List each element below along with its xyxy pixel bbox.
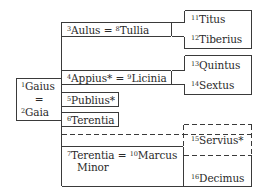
marriage-sign: =: [16, 93, 62, 105]
person-sextus: 14Sextus: [191, 79, 234, 91]
person-tiberius: 12Tiberius: [191, 33, 242, 45]
couple-terentia-marcus: 7Terentia = 10Marcus: [67, 149, 177, 161]
person-publius: 5Publius*: [67, 94, 115, 106]
couple-terentia-marcus-line2: Minor: [77, 161, 109, 173]
person-gaius: 1Gaius: [21, 80, 55, 92]
person-quintus: 13Quintus: [191, 59, 240, 71]
person-decimus: 16Decimus: [191, 172, 244, 184]
family-tree-diagram: 1Gaius = 2Gaia 3Aulus = 8Tullia 4Appius*…: [0, 0, 261, 195]
person-gaia: 2Gaia: [21, 106, 49, 118]
couple-appius-licinia: 4Appius* = 9Licinia: [67, 72, 167, 84]
couple-aulus-tullia: 3Aulus = 8Tullia: [67, 24, 149, 36]
person-servius: 15Servius*: [191, 134, 243, 146]
person-titus: 11Titus: [191, 13, 225, 25]
person-terentia: 6Terentia: [67, 114, 114, 126]
